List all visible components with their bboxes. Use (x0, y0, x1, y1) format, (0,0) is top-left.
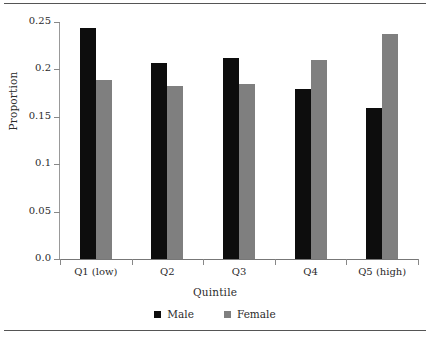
bar-group (80, 22, 112, 259)
bar-male-1 (80, 28, 96, 259)
x-axis-tick-label: Q3 (203, 266, 275, 277)
figure: Proportion 0.00.050.10.150.20.25 Q1 (low… (0, 0, 430, 341)
x-axis-tick-mark (60, 259, 61, 265)
bar-male-2 (151, 63, 167, 259)
legend-swatch-icon (154, 311, 161, 318)
bottom-rule (4, 330, 426, 331)
bar-group (223, 22, 255, 259)
x-axis-title: Quintile (0, 286, 430, 298)
bar-male-4 (295, 89, 311, 259)
bar-group (295, 22, 327, 259)
x-axis-tick-mark (346, 259, 347, 265)
x-axis-tick-label: Q4 (275, 266, 347, 277)
bar-male-3 (223, 58, 239, 259)
x-axis-tick-label: Q2 (132, 266, 204, 277)
legend-label: Male (167, 308, 194, 320)
bar-female-5 (382, 34, 398, 259)
x-axis-tick-mark (132, 259, 133, 265)
bar-female-2 (167, 86, 183, 259)
legend-item-male[interactable]: Male (154, 308, 194, 320)
x-axis-tick-mark (203, 259, 204, 265)
y-axis-tick-label: 0.05 (29, 205, 51, 216)
y-axis-tick-label: 0.25 (29, 15, 51, 26)
y-axis-tick-label: 0.0 (35, 252, 51, 263)
x-axis-tick-label: Q1 (low) (60, 266, 132, 277)
y-axis-tick-label: 0.2 (35, 62, 51, 73)
bar-female-1 (96, 80, 112, 259)
legend-label: Female (237, 308, 276, 320)
x-axis-tick-mark (275, 259, 276, 265)
bar-female-3 (239, 84, 255, 259)
y-axis-tick-label: 0.15 (29, 110, 51, 121)
bar-group (366, 22, 398, 259)
x-axis-tick-label: Q5 (high) (346, 266, 418, 277)
chart-legend: MaleFemale (0, 308, 430, 320)
x-axis-line (60, 259, 418, 260)
y-axis-tick-label: 0.1 (35, 157, 51, 168)
legend-item-female[interactable]: Female (224, 308, 276, 320)
x-axis-tick-mark (418, 259, 419, 265)
bar-male-5 (366, 108, 382, 259)
y-axis-title: Proportion (7, 46, 19, 156)
bar-female-4 (311, 60, 327, 259)
plot-area (60, 22, 418, 259)
top-rule (4, 3, 426, 4)
legend-swatch-icon (224, 311, 231, 318)
bar-group (151, 22, 183, 259)
